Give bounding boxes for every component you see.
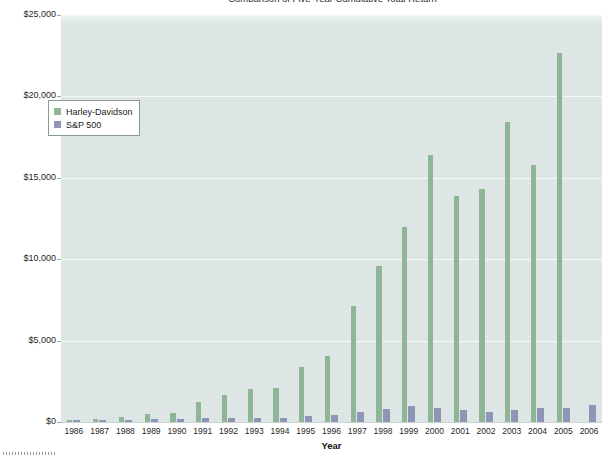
gridline	[61, 259, 602, 260]
x-axis-tick-label: 1995	[293, 426, 319, 436]
chart-legend: Harley-Davidson S&P 500	[48, 100, 140, 136]
bar-sp500	[434, 408, 441, 422]
bar-harley-davidson	[557, 53, 562, 422]
bar-sp500	[511, 410, 518, 422]
bar-sp500	[383, 409, 390, 422]
bar-sp500	[357, 412, 364, 422]
x-axis-tick-label: 2003	[499, 426, 525, 436]
legend-swatch-sp500	[54, 121, 61, 128]
bar-harley-davidson	[196, 402, 201, 422]
x-axis-tick-label: 1987	[87, 426, 113, 436]
bar-harley-davidson	[428, 155, 433, 422]
y-axis-tick-label: $25,000	[0, 9, 56, 19]
legend-label-sp500: S&P 500	[66, 119, 101, 131]
x-axis-tick-label: 1994	[267, 426, 293, 436]
y-axis-tick-mark	[57, 341, 61, 342]
bar-sp500	[537, 408, 544, 422]
bar-sp500	[486, 412, 493, 422]
bar-sp500	[460, 410, 467, 422]
bar-harley-davidson	[170, 413, 175, 422]
legend-item-sp500: S&P 500	[54, 118, 133, 131]
bar-harley-davidson	[248, 389, 253, 422]
y-axis-tick-label: $15,000	[0, 172, 56, 182]
legend-label-harley-davidson: Harley-Davidson	[66, 106, 133, 118]
x-axis-tick-label: 2004	[525, 426, 551, 436]
y-axis-tick-mark	[57, 259, 61, 260]
y-axis-tick-mark	[57, 178, 61, 179]
bar-sp500	[589, 405, 596, 422]
bar-harley-davidson	[145, 414, 150, 422]
bar-harley-davidson	[505, 122, 510, 422]
x-axis-line	[61, 422, 602, 423]
bar-harley-davidson	[454, 196, 459, 422]
gridline	[61, 96, 602, 97]
x-axis-tick-label: 1998	[370, 426, 396, 436]
plot-background-sheen	[61, 15, 602, 25]
legend-item-harley-davidson: Harley-Davidson	[54, 105, 133, 118]
x-axis-tick-label: 1993	[241, 426, 267, 436]
x-axis-tick-label: 2002	[473, 426, 499, 436]
bar-harley-davidson	[222, 395, 227, 422]
x-axis-tick-label: 1996	[319, 426, 345, 436]
bar-sp500	[563, 408, 570, 422]
x-axis-tick-label: 2005	[550, 426, 576, 436]
gridline	[61, 15, 602, 16]
bar-harley-davidson	[299, 367, 304, 422]
chart-title: Comparison of Five-Year Cumulative Total…	[60, 0, 605, 2]
x-axis-tick-label: 1986	[61, 426, 87, 436]
plot-area	[61, 15, 602, 422]
bar-sp500	[408, 406, 415, 422]
bar-sp500	[331, 415, 338, 422]
gridline	[61, 178, 602, 179]
bar-harley-davidson	[402, 227, 407, 422]
bar-harley-davidson	[273, 388, 278, 422]
bar-harley-davidson	[531, 165, 536, 422]
cumulative-total-return-chart: Comparison of Five-Year Cumulative Total…	[0, 0, 605, 463]
x-axis-title: Year	[61, 440, 602, 451]
x-axis-tick-label: 1992	[216, 426, 242, 436]
x-axis-tick-label: 1989	[138, 426, 164, 436]
bar-harley-davidson	[325, 356, 330, 422]
x-axis-tick-label: 1990	[164, 426, 190, 436]
y-axis-tick-label: $5,000	[0, 335, 56, 345]
y-axis-tick-label: $10,000	[0, 253, 56, 263]
x-axis-tick-label: 2001	[447, 426, 473, 436]
x-axis-tick-label: 1991	[190, 426, 216, 436]
y-axis-tick-mark	[57, 96, 61, 97]
x-axis-tick-label: 2000	[422, 426, 448, 436]
y-axis-tick-label: $20,000	[0, 90, 56, 100]
bar-harley-davidson	[376, 266, 381, 422]
bar-harley-davidson	[351, 306, 356, 422]
y-axis-tick-label: $0	[0, 416, 56, 426]
x-axis-tick-label: 2006	[576, 426, 602, 436]
x-axis-tick-label: 1988	[113, 426, 139, 436]
x-axis-tick-label: 1999	[396, 426, 422, 436]
footer-dotted-rule	[3, 452, 57, 455]
legend-swatch-harley-davidson	[54, 108, 61, 115]
bar-harley-davidson	[479, 189, 484, 422]
gridline	[61, 341, 602, 342]
x-axis-tick-label: 1997	[344, 426, 370, 436]
y-axis-tick-mark	[57, 15, 61, 16]
